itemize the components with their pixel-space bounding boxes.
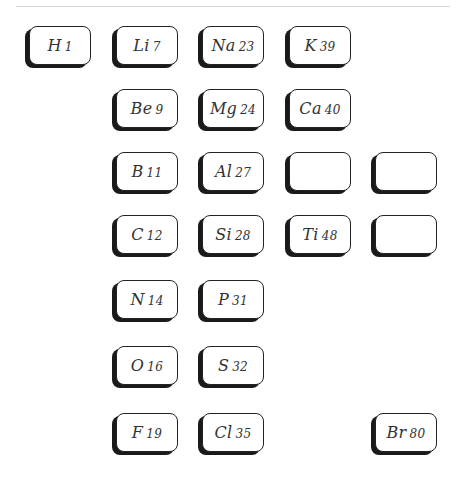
element-symbol: Ti — [302, 225, 318, 244]
element-label: K39 — [304, 36, 335, 55]
element-symbol: Mg — [210, 99, 237, 118]
element-symbol: Br — [387, 423, 407, 442]
element-card-c: C12 — [116, 215, 178, 254]
atomic-weight: 80 — [410, 427, 426, 441]
element-card-br: Br80 — [375, 413, 437, 452]
atomic-weight: 11 — [147, 166, 163, 180]
atomic-weight: 40 — [325, 103, 341, 117]
atomic-weight: 1 — [65, 40, 73, 54]
element-card-k: K39 — [289, 26, 351, 65]
empty-element-card — [375, 215, 437, 254]
element-symbol: K — [304, 36, 316, 55]
atomic-weight: 7 — [153, 40, 161, 54]
atomic-weight: 14 — [148, 294, 164, 308]
element-symbol: Ca — [299, 99, 321, 118]
element-label: N14 — [130, 290, 163, 309]
element-card-li: Li7 — [116, 26, 178, 65]
atomic-weight: 31 — [232, 294, 248, 308]
element-symbol: Li — [133, 36, 149, 55]
element-symbol: O — [131, 356, 144, 375]
element-card-f: F19 — [116, 413, 178, 452]
atomic-weight: 23 — [239, 40, 255, 54]
atomic-weight: 48 — [322, 229, 338, 243]
element-symbol: N — [130, 290, 144, 309]
element-label: Be9 — [131, 99, 164, 118]
element-label: Li7 — [133, 36, 160, 55]
element-label: Cl35 — [215, 423, 252, 442]
element-symbol: Si — [215, 225, 232, 244]
atomic-weight: 16 — [147, 360, 163, 374]
element-symbol: C — [131, 225, 144, 244]
atomic-weight: 28 — [235, 229, 251, 243]
element-symbol: P — [218, 290, 229, 309]
element-card-al: Al27 — [202, 152, 264, 191]
atomic-weight: 27 — [235, 166, 251, 180]
element-label: Br80 — [387, 423, 426, 442]
atomic-weight: 12 — [147, 229, 163, 243]
atomic-weight: 24 — [240, 103, 256, 117]
element-card-cl: Cl35 — [202, 413, 264, 452]
atomic-weight: 9 — [155, 103, 163, 117]
element-card-na: Na23 — [202, 26, 264, 65]
empty-element-card — [289, 152, 351, 191]
element-symbol: Cl — [215, 423, 233, 442]
top-divider — [16, 6, 450, 7]
element-card-s: S32 — [202, 346, 264, 385]
element-card-si: Si28 — [202, 215, 264, 254]
atomic-weight: 19 — [146, 427, 162, 441]
element-label: B11 — [132, 162, 163, 181]
element-label: Mg24 — [210, 99, 256, 118]
element-label: O16 — [131, 356, 163, 375]
element-symbol: B — [132, 162, 144, 181]
element-card-mg: Mg24 — [202, 89, 264, 128]
element-label: Si28 — [215, 225, 251, 244]
element-label: Ti48 — [302, 225, 337, 244]
element-card-ca: Ca40 — [289, 89, 351, 128]
element-symbol: Al — [215, 162, 232, 181]
element-label: Al27 — [215, 162, 251, 181]
element-symbol: S — [218, 356, 229, 375]
element-symbol: Na — [211, 36, 235, 55]
element-card-n: N14 — [116, 280, 178, 319]
element-symbol: H — [47, 36, 61, 55]
element-label: C12 — [131, 225, 162, 244]
element-card-b: B11 — [116, 152, 178, 191]
element-card-ti: Ti48 — [289, 215, 351, 254]
element-card-p: P31 — [202, 280, 264, 319]
element-label: Na23 — [211, 36, 254, 55]
atomic-weight: 35 — [236, 427, 252, 441]
element-card-h: H1 — [29, 26, 91, 65]
element-symbol: Be — [131, 99, 153, 118]
atomic-weight: 39 — [320, 40, 336, 54]
element-label: F19 — [132, 423, 162, 442]
element-card-o: O16 — [116, 346, 178, 385]
element-label: H1 — [47, 36, 72, 55]
empty-element-card — [375, 152, 437, 191]
element-label: S32 — [218, 356, 248, 375]
element-label: P31 — [218, 290, 248, 309]
atomic-weight: 32 — [232, 360, 248, 374]
element-label: Ca40 — [299, 99, 340, 118]
element-symbol: F — [132, 423, 143, 442]
element-card-be: Be9 — [116, 89, 178, 128]
